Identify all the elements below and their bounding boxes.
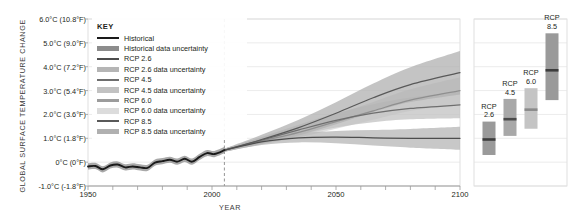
legend-key: KEY HistoricalHistorical data uncertaint… <box>92 18 247 140</box>
legend-band-swatch <box>97 67 119 72</box>
legend-item-label: RCP 6.0 data uncertainty <box>124 107 205 114</box>
legend-item: RCP 6.0 <box>97 95 243 105</box>
legend-item: RCP 2.6 data uncertainty <box>97 64 243 74</box>
legend-line-swatch <box>97 37 119 39</box>
legend-items: HistoricalHistorical data uncertaintyRCP… <box>97 33 243 137</box>
legend-band-swatch <box>97 108 119 113</box>
legend-item-label: RCP 8.5 data uncertainty <box>124 128 205 135</box>
legend-item-label: RCP 4.5 data uncertainty <box>124 87 205 94</box>
side-panel-label-2-6: RCP2.6 <box>481 103 496 120</box>
x-axis-tick-label: 2000 <box>204 190 221 199</box>
rcp-label-line2: 6.0 <box>526 77 536 86</box>
rcp-label-line2: 2.6 <box>484 110 494 119</box>
legend-band-swatch <box>97 129 119 134</box>
legend-item: RCP 8.5 <box>97 116 243 126</box>
legend-item: Historical data uncertainty <box>97 43 243 53</box>
range-bar-median-8-5 <box>546 69 559 72</box>
side-panel-label-4-5: RCP4.5 <box>502 80 517 97</box>
legend-item: RCP 6.0 data uncertainty <box>97 106 243 116</box>
x-axis-tick-label: 2100 <box>452 190 469 199</box>
legend-item-label: RCP 4.5 <box>124 76 151 83</box>
legend-item-label: RCP 8.5 <box>124 118 151 125</box>
x-axis-title: YEAR <box>0 203 460 212</box>
range-bar-median-6-0 <box>525 108 538 111</box>
rcp-label-line2: 8.5 <box>547 22 557 31</box>
legend-item: RCP 8.5 data uncertainty <box>97 127 243 137</box>
climate-projection-figure: GLOBAL SURFACE TEMPERATURE CHANGE 6.0°C … <box>0 0 573 220</box>
side-panel-label-8-5: RCP8.5 <box>544 14 559 31</box>
legend-item-label: RCP 6.0 <box>124 97 151 104</box>
range-bar-4-5 <box>504 99 517 136</box>
legend-item: Historical <box>97 33 243 43</box>
legend-band-swatch <box>97 46 119 51</box>
legend-title: KEY <box>97 22 243 31</box>
legend-item-label: RCP 2.6 data uncertainty <box>124 66 205 73</box>
range-bar-median-2-6 <box>483 138 496 141</box>
legend-line-swatch <box>97 58 119 60</box>
legend-item-label: Historical data uncertainty <box>124 45 208 52</box>
legend-item: RCP 4.5 <box>97 75 243 85</box>
x-axis-tick-label: 1950 <box>80 190 97 199</box>
side-panel-label-6-0: RCP6.0 <box>523 69 538 86</box>
range-bar-8-5 <box>546 33 559 100</box>
x-axis-tick-label: 2050 <box>328 190 345 199</box>
legend-line-swatch <box>97 99 119 101</box>
legend-line-swatch <box>97 79 119 81</box>
legend-line-swatch <box>97 120 119 122</box>
legend-item: RCP 2.6 <box>97 54 243 64</box>
legend-band-swatch <box>97 87 119 92</box>
legend-item: RCP 4.5 data uncertainty <box>97 85 243 95</box>
legend-item-label: Historical <box>124 35 154 42</box>
legend-item-label: RCP 2.6 <box>124 55 151 62</box>
rcp-label-line2: 4.5 <box>505 88 515 97</box>
range-bar-median-4-5 <box>504 118 517 121</box>
